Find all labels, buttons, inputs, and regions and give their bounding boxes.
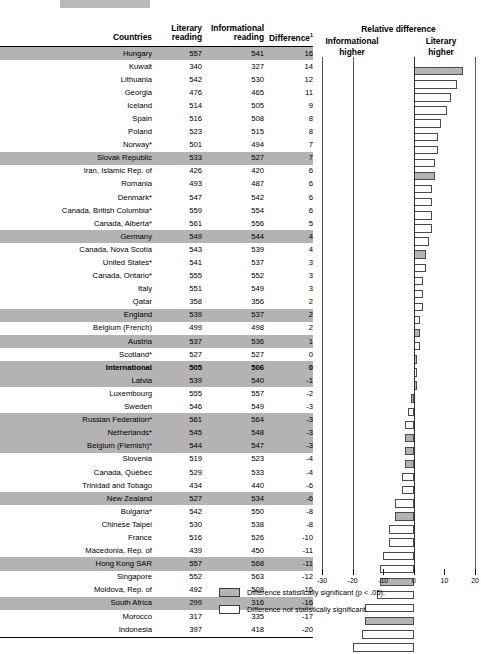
chart-bar-row (316, 65, 481, 78)
cell-country: Austria (0, 335, 152, 348)
x-axis-tick (383, 569, 384, 575)
chart-zero-line (414, 57, 415, 573)
x-axis-tick (414, 569, 415, 575)
table-row: France516526-10 (0, 531, 313, 544)
chart-bar-row (316, 314, 481, 327)
x-axis-tick (353, 569, 354, 575)
chart-title: Relative difference (316, 24, 481, 34)
cell-country: Scotland* (0, 348, 152, 361)
chart-bar (414, 119, 442, 127)
cell-difference: -4 (264, 466, 313, 479)
cell-literary-reading: 527 (152, 348, 202, 361)
country-score-table: Countries Literary reading Informational… (0, 24, 313, 636)
cell-informational-reading: 523 (202, 453, 264, 466)
legend-label-not-significant: Difference not statistically significant… (247, 605, 368, 614)
chart-bar-row (316, 379, 481, 392)
chart-bar-row (316, 327, 481, 340)
cell-difference: 3 (264, 283, 313, 296)
legend-label-significant: Difference statistically significant (p … (247, 588, 385, 597)
cell-country: Qatar (0, 296, 152, 309)
cell-difference: -11 (264, 544, 313, 557)
table-row: Hungary55754116 (0, 46, 313, 60)
cell-difference: 16 (264, 46, 313, 60)
cell-country: Canada, Nova Scotia (0, 243, 152, 256)
chart-bar (383, 552, 414, 560)
cell-difference: 8 (264, 125, 313, 138)
cell-literary-reading: 557 (152, 557, 202, 570)
table-row: Canada, Nova Scotia5435394 (0, 243, 313, 256)
cell-difference: 4 (264, 243, 313, 256)
cell-literary-reading: 542 (152, 73, 202, 86)
legend-item-not-significant: Difference not statistically significant… (219, 603, 481, 616)
table-body: Hungary55754116Kuwait34032714Lithuania54… (0, 46, 313, 636)
cell-difference: 6 (264, 178, 313, 191)
cell-difference: 14 (264, 60, 313, 73)
chart-bar (414, 237, 429, 245)
cell-difference: 7 (264, 152, 313, 165)
chart-bar-row (316, 458, 481, 471)
chart-bar-row (316, 628, 481, 641)
cell-informational-reading: 536 (202, 335, 264, 348)
cell-literary-reading: 555 (152, 387, 202, 400)
cell-difference: 11 (264, 86, 313, 99)
cell-country: United States* (0, 256, 152, 269)
cell-difference: -3 (264, 413, 313, 426)
cell-difference: 2 (264, 322, 313, 335)
table-row: Latvia539540-1 (0, 374, 313, 387)
chart-subtitle-literary-higher: Literary higher (400, 36, 481, 57)
cell-informational-reading: 552 (202, 269, 264, 282)
chart-bar-row (316, 117, 481, 130)
chart-bar-row (316, 275, 481, 288)
cell-informational-reading: 356 (202, 296, 264, 309)
cell-informational-reading: 440 (202, 479, 264, 492)
table-row: Scotland*5275270 (0, 348, 313, 361)
chart-bar (389, 525, 413, 533)
table-row: Hong Kong SAR557568-11 (0, 557, 313, 570)
column-header-literary-reading: Literary reading (152, 24, 202, 46)
cell-informational-reading: 549 (202, 283, 264, 296)
cell-country: France (0, 531, 152, 544)
chart-subtitle-informational-higher: Informational higher (311, 36, 393, 57)
cell-difference: 0 (264, 348, 313, 361)
chart-bar (405, 421, 414, 429)
x-axis-tick-label: 0 (402, 577, 426, 584)
chart-bar (362, 630, 414, 638)
chart-bar-row (316, 510, 481, 523)
cell-country: Netherlands* (0, 427, 152, 440)
chart-bar (395, 499, 413, 507)
chart-bars (316, 65, 481, 565)
cell-literary-reading: 546 (152, 400, 202, 413)
cell-literary-reading: 516 (152, 112, 202, 125)
chart-bar (414, 106, 448, 114)
cell-difference: -8 (264, 505, 313, 518)
cell-informational-reading: 540 (202, 374, 264, 387)
cell-difference: -3 (264, 400, 313, 413)
cell-literary-reading: 542 (152, 505, 202, 518)
cell-literary-reading: 501 (152, 138, 202, 151)
chart-bar-row (316, 183, 481, 196)
chart-bar-row (316, 301, 481, 314)
table-row: Germany5495444 (0, 230, 313, 243)
cell-informational-reading: 538 (202, 518, 264, 531)
cell-informational-reading: 527 (202, 152, 264, 165)
cell-country: England (0, 309, 152, 322)
cell-literary-reading: 439 (152, 544, 202, 557)
cell-difference: 9 (264, 99, 313, 112)
cell-literary-reading: 299 (152, 597, 202, 610)
cell-difference: -1 (264, 374, 313, 387)
cell-country: Hong Kong SAR (0, 557, 152, 570)
table-row: Luxembourg555557-2 (0, 387, 313, 400)
chart-bar-row (316, 549, 481, 562)
chart-frame-line-0 (322, 57, 323, 569)
table-row: Bulgaria*542550-8 (0, 505, 313, 518)
chart-bar-row (316, 641, 481, 654)
chart-bar-row (316, 366, 481, 379)
cell-literary-reading: 557 (152, 46, 202, 60)
table-row: Belgium (Flemish)*544547-3 (0, 440, 313, 453)
cell-literary-reading: 533 (152, 152, 202, 165)
cell-informational-reading: 554 (202, 204, 264, 217)
chart-bar (414, 146, 438, 154)
cell-literary-reading: 397 (152, 623, 202, 636)
cell-country: Lithuania (0, 73, 152, 86)
table-row: Russian Federation*561564-3 (0, 413, 313, 426)
